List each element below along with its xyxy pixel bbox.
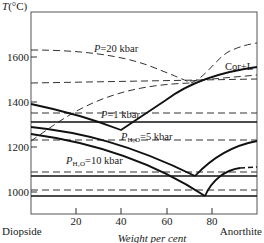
x-axis-title: Weight per cent	[118, 232, 188, 243]
x-end-label-anorthite: Anorthite	[220, 225, 262, 237]
xtick-60: 60	[162, 215, 174, 227]
ytick-1600: 1600	[7, 51, 30, 63]
ytick-1400: 1400	[7, 96, 30, 108]
xtick-20: 20	[71, 215, 83, 227]
annotation-cor-l: Cor+L	[225, 61, 253, 72]
xtick-80: 80	[207, 215, 219, 227]
ytick-1200: 1200	[7, 141, 30, 153]
x-end-label-diopside: Diopside	[2, 225, 42, 237]
p10-an-tail	[240, 167, 257, 168]
annotation-p1: P=1 kbar	[100, 109, 140, 120]
ytick-1000: 1000	[7, 186, 30, 198]
annotation-ph2o-10: PH₂O=10 kbar	[65, 155, 123, 168]
annotation-ph2o-5: PH₂O=5 kbar	[120, 131, 173, 144]
xtick-40: 40	[116, 215, 128, 227]
p20-liquidus	[31, 43, 257, 141]
y-axis-title: T(°C)	[2, 0, 28, 13]
x-ticks: 20 40 60 80	[71, 208, 219, 227]
phase-diagram: T(°C) 1600 1400 1200 1000 20 40 60 80 Di…	[0, 0, 264, 243]
annotation-p20: P=20 kbar	[93, 43, 139, 54]
